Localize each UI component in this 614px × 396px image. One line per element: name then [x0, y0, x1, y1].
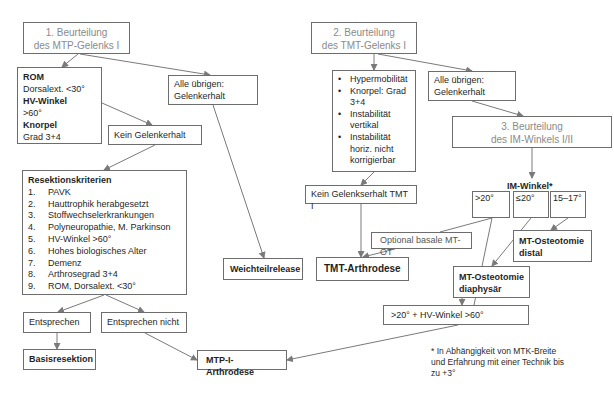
kein-gelenkserhalt-tmt-box: Kein Gelenkserhalt TMT I [305, 185, 417, 204]
step3-line1: 3. Beurteilung [458, 120, 606, 133]
resektion-item: 8.Arthrosegrad 3+4 [28, 269, 181, 281]
basisresektion-box: Basisresektion [23, 349, 96, 370]
resektion-item: 3.Stoffwechselerkrankungen [28, 210, 181, 222]
rom-value: Dorsalext. <30° [23, 83, 96, 95]
combo-text: >20° + HV-Winkel >60° [391, 310, 484, 320]
kein-tmt-text: Kein Gelenkserhalt TMT I [311, 189, 408, 211]
step2-line2: des TMT-Gelenks I [317, 39, 411, 52]
footnote-line1: * In Abhängigkeit von MTK-Breite [431, 346, 564, 357]
mt-osteotomie-distal-box: MT-Osteotomie distal [513, 230, 592, 262]
entsprechen-text: Entsprechen [29, 317, 80, 327]
resektion-title: Resektionskriterien [28, 175, 181, 187]
resektion-item: 1.PAVK [28, 187, 181, 199]
entsprechen-nicht-text: Entsprechen nicht [107, 317, 179, 327]
footnote: * In Abhängigkeit von MTK-Breite und Erf… [431, 346, 564, 379]
weichteilrelease-text: Weichteilrelease [230, 264, 300, 274]
alle-right-line1: Alle übrigen: [434, 75, 510, 87]
im-winkel-label: IM-Winkel* [507, 181, 552, 191]
footnote-line2: und Erfahrung mit einer Technik bis [431, 357, 564, 368]
footnote-line3: zu +3° [431, 368, 564, 379]
mtp-arthrodese-box: MTP-I-Arthrodese [197, 350, 287, 370]
basisresektion-text: Basisresektion [29, 354, 93, 364]
tmt-arthrodese-text: TMT-Arthrodese [324, 263, 401, 274]
im-range-le20-box: ≤20° [513, 191, 549, 218]
weichteilrelease-box: Weichteilrelease [223, 258, 303, 280]
resektion-item: 9.ROM, Dorsalext. <30° [28, 281, 181, 293]
rom-heading: ROM [23, 71, 96, 83]
resektion-item: 6.Hohes biologisches Alter [28, 246, 181, 258]
resektion-item: 4.Polyneuropathie, M. Parkinson [28, 222, 181, 234]
mt-diaphysaer-line1: MT-Osteotomie [459, 271, 524, 283]
mt-distal-line2: distal [519, 247, 586, 259]
combo-criteria-box: >20° + HV-Winkel >60° [383, 305, 529, 325]
im-range-15-17-text: 15–17° [553, 193, 582, 203]
alle-uebrigen-right-box: Alle übrigen: Gelenkerhalt [428, 71, 516, 101]
tmt-criteria-item: •Hypermobilität [338, 74, 410, 86]
resektion-item: 2.Hauttrophik herabgesetzt [28, 199, 181, 211]
optional-mtot-text: Optional basale MT-OT [380, 235, 461, 257]
im-range-le20-text: ≤20° [516, 193, 535, 203]
mtp-arthrodese-text: MTP-I-Arthrodese [206, 355, 254, 377]
tmt-arthrodese-box: TMT-Arthrodese [316, 257, 409, 281]
entsprechen-box: Entsprechen [23, 312, 91, 333]
im-range-gt20-text: >20° [475, 193, 494, 203]
step1-line2: des MTP-Gelenks I [29, 39, 124, 52]
tmt-criteria-item: •Instabilität vertikal [338, 109, 410, 132]
knorpel-value: Grad 3+4 [23, 131, 96, 143]
alle-left-line2: Gelenkerhalt [174, 91, 252, 103]
tmt-criteria-item: •Instabilität horiz. nicht korrigierbar [338, 132, 410, 167]
tmt-criteria-item: •Knorpel: Grad 3+4 [338, 86, 410, 109]
step3-line2: des IM-Winkels I/II [458, 133, 606, 146]
step3-im-assessment-box: 3. Beurteilung des IM-Winkels I/II [452, 116, 612, 148]
step2-tmt-assessment-box: 2. Beurteilung des TMT-Gelenks I [311, 22, 417, 54]
hv-winkel-value: >60° [23, 107, 96, 119]
alle-uebrigen-left-box: Alle übrigen: Gelenkerhalt [168, 75, 258, 105]
optional-basale-mtot-box: Optional basale MT-OT [371, 232, 472, 249]
im-range-gt20-box: >20° [472, 191, 510, 218]
knorpel-heading: Knorpel [23, 119, 96, 131]
alle-left-line1: Alle übrigen: [174, 79, 252, 91]
step2-line1: 2. Beurteilung [317, 26, 411, 39]
mt-diaphysaer-line2: diaphysär [459, 283, 524, 295]
step1-line1: 1. Beurteilung [29, 26, 124, 39]
mt-osteotomie-diaphysaer-box: MT-Osteotomie diaphysär [453, 266, 530, 298]
step1-mtp-assessment-box: 1. Beurteilung des MTP-Gelenks I [23, 22, 130, 54]
im-range-15-17-box: 15–17° [550, 191, 586, 218]
resektionskriterien-box: Resektionskriterien 1.PAVK 2.Hauttrophik… [22, 170, 187, 295]
resektion-item: 5.HV-Winkel >60° [28, 234, 181, 246]
resektion-list: 1.PAVK 2.Hauttrophik herabgesetzt 3.Stof… [28, 187, 181, 293]
rom-criteria-box: ROM Dorsalext. <30° HV-Winkel >60° Knorp… [17, 67, 102, 144]
entsprechen-nicht-box: Entsprechen nicht [101, 312, 187, 333]
mt-distal-line1: MT-Osteotomie [519, 235, 586, 247]
tmt-criteria-list: •Hypermobilität •Knorpel: Grad 3+4 •Inst… [338, 74, 410, 167]
alle-right-line2: Gelenkerhalt [434, 87, 510, 99]
hv-winkel-heading: HV-Winkel [23, 95, 96, 107]
tmt-criteria-box: •Hypermobilität •Knorpel: Grad 3+4 •Inst… [332, 70, 416, 172]
resektion-item: 7.Demenz [28, 258, 181, 270]
kein-gelenkerhalt-text: Kein Gelenkerhalt [114, 130, 186, 140]
kein-gelenkerhalt-box: Kein Gelenkerhalt [108, 125, 202, 145]
